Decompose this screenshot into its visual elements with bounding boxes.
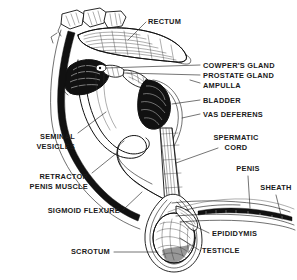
label-ampulla: AMPULLA: [203, 81, 241, 90]
label-seminal-vesicles-line2: VESICLES: [36, 142, 75, 151]
label-prostate-gland: PROSTATE GLAND: [203, 71, 274, 80]
label-retractor-penis-muscle-line1: RETRACTOR: [39, 172, 88, 181]
label-scrotum: SCROTUM: [71, 247, 110, 256]
label-testicle: TESTICLE: [202, 246, 240, 255]
anatomy-diagram: RECTUM COWPER'S GLAND PROSTATE GLAND AMP…: [0, 0, 297, 280]
label-epididymis: EPIDIDYMIS: [212, 229, 257, 238]
label-spermatic-cord-line2: CORD: [225, 143, 248, 152]
label-penis: PENIS: [236, 164, 259, 173]
label-retractor-penis-muscle-line2: PENIS MUSCLE: [30, 182, 88, 191]
label-spermatic-cord-line1: SPERMATIC: [213, 133, 259, 142]
label-sheath: SHEATH: [260, 183, 291, 192]
label-rectum: RECTUM: [148, 17, 181, 26]
label-sigmoid-flexure: SIGMOID FLEXURE: [48, 206, 120, 215]
diagram-canvas: RECTUM COWPER'S GLAND PROSTATE GLAND AMP…: [0, 0, 297, 280]
label-bladder: BLADDER: [203, 96, 241, 105]
label-vas-deferens: VAS DEFERENS: [203, 110, 263, 119]
cowpers-gland-structure: [96, 64, 106, 71]
label-cowpers-gland: COWPER'S GLAND: [203, 61, 275, 70]
label-seminal-vesicles-line1: SEMINAL: [40, 132, 75, 141]
